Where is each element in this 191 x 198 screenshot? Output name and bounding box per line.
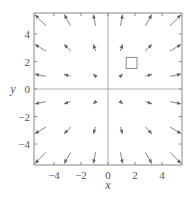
field-arrow <box>93 152 95 163</box>
field-arrow <box>120 152 122 163</box>
x-tick-label: 4 <box>159 169 165 181</box>
field-arrow <box>93 15 95 26</box>
field-arrow <box>64 74 70 76</box>
field-arrow <box>35 74 46 76</box>
x-tick-label: −4 <box>48 169 60 181</box>
field-arrow <box>170 127 181 134</box>
field-arrow <box>170 15 181 26</box>
y-tick-label: −4 <box>18 138 30 150</box>
field-arrow <box>120 74 122 76</box>
field-arrow <box>64 102 70 104</box>
field-arrow <box>64 127 70 134</box>
field-arrow <box>145 74 151 76</box>
field-arrow <box>120 45 122 52</box>
field-arrow <box>170 102 181 104</box>
field-arrow <box>64 15 70 26</box>
axes-layer <box>34 13 182 165</box>
field-arrow <box>170 74 181 76</box>
x-axis-label: x <box>104 178 111 192</box>
field-arrow <box>93 74 95 76</box>
field-arrow <box>170 152 181 163</box>
y-tick-label: −2 <box>18 111 30 123</box>
field-arrow <box>93 102 95 104</box>
field-arrow <box>35 152 46 163</box>
x-tick-label: 2 <box>132 169 138 181</box>
field-arrow <box>93 45 95 52</box>
field-arrow <box>145 15 151 26</box>
field-arrow <box>145 45 151 52</box>
y-tick-label: 2 <box>25 56 31 68</box>
field-arrow <box>145 102 151 104</box>
field-arrow <box>35 15 46 26</box>
field-arrow <box>145 127 151 134</box>
annotation-square <box>126 57 137 68</box>
field-arrow <box>93 127 95 134</box>
field-arrow <box>120 127 122 134</box>
x-tick-label: −2 <box>75 169 87 181</box>
field-arrow <box>145 152 151 163</box>
field-arrow <box>120 102 122 104</box>
y-tick-label: 4 <box>25 28 31 40</box>
y-tick-label: 0 <box>25 83 31 95</box>
field-arrow <box>120 15 122 26</box>
field-arrow <box>35 45 46 52</box>
field-arrow <box>35 102 46 104</box>
y-axis-label: y <box>9 82 16 96</box>
field-arrow <box>35 127 46 134</box>
field-arrow <box>64 152 70 163</box>
field-arrow <box>64 45 70 52</box>
field-arrow <box>170 45 181 52</box>
vector-field-plot: −4−2024420−2−4 x y <box>0 0 191 198</box>
